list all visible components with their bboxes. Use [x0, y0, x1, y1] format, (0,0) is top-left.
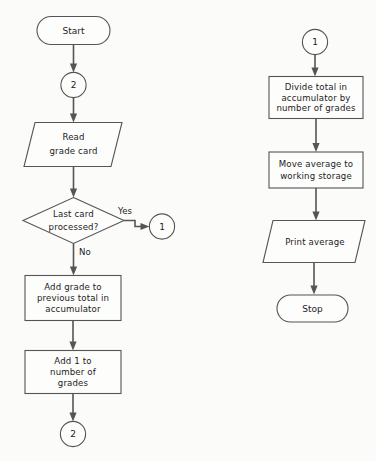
node-add-count-process[interactable]: Add 1 to number of grades: [25, 351, 121, 394]
node-print-average[interactable]: Print average: [263, 221, 365, 263]
edge-connector2-to-read: [70, 98, 77, 123]
edge-start-to-connector2: [70, 45, 77, 73]
flowchart-page: Start 2 Read grade card: [0, 0, 376, 461]
connector-1-out-label: 1: [159, 222, 165, 232]
read-grade-card-line2: grade card: [49, 146, 97, 156]
add-grade-process-line2: previous total in: [37, 293, 109, 303]
edge-decision-no: No: [70, 244, 91, 276]
print-average-label: Print average: [285, 237, 345, 247]
node-divide-process[interactable]: Divide total in accumulator by number of…: [269, 77, 363, 119]
add-count-process-line2: number of: [50, 367, 97, 377]
flowchart-canvas: Start 2 Read grade card: [0, 0, 376, 461]
read-grade-card-shape: [24, 123, 122, 167]
add-grade-process-line3: accumulator: [45, 304, 101, 314]
node-read-grade-card[interactable]: Read grade card: [24, 123, 122, 167]
edge-read-to-decision: [70, 167, 77, 198]
divide-process-line3: number of grades: [276, 103, 356, 113]
divide-process-line1: Divide total in: [285, 82, 347, 92]
stop-terminator-label: Stop: [302, 304, 323, 314]
edge-decision-yes: Yes: [117, 206, 149, 231]
edge-print-to-stop: [310, 263, 317, 295]
node-move-process[interactable]: Move average to working storage: [269, 152, 363, 188]
decision-no-label: No: [79, 247, 91, 257]
node-connector-2-in[interactable]: 2: [61, 72, 86, 97]
node-connector-2-out[interactable]: 2: [60, 421, 85, 446]
node-decision-last-card[interactable]: Last card processed?: [23, 198, 124, 244]
decision-last-card-line2: processed?: [49, 222, 99, 232]
node-connector-1-in[interactable]: 1: [302, 29, 327, 54]
start-terminator-label: Start: [63, 26, 85, 36]
move-process-line1: Move average to: [279, 159, 354, 169]
edge-move-to-print: [312, 188, 319, 221]
node-connector-1-out[interactable]: 1: [149, 214, 174, 239]
node-start-terminator[interactable]: Start: [37, 17, 110, 45]
decision-last-card-shape: [23, 198, 124, 244]
edge-addcount-to-connector2out: [69, 394, 76, 422]
decision-yes-label: Yes: [117, 206, 132, 216]
node-stop-terminator[interactable]: Stop: [277, 295, 348, 322]
edge-divide-to-move: [312, 119, 319, 153]
add-count-process-line3: grades: [58, 378, 89, 388]
divide-process-line2: accumulator by: [281, 93, 350, 103]
connector-1-in-label: 1: [312, 37, 318, 47]
read-grade-card-line1: Read: [62, 132, 84, 142]
decision-last-card-line1: Last card: [53, 209, 94, 219]
connector-2-in-label: 2: [71, 80, 77, 90]
node-add-grade-process[interactable]: Add grade to previous total in accumulat…: [25, 276, 121, 321]
add-grade-process-line1: Add grade to: [44, 282, 102, 292]
connector-2-out-label: 2: [70, 429, 76, 439]
add-count-process-line1: Add 1 to: [54, 356, 91, 366]
edge-addgrade-to-addcount: [69, 321, 76, 351]
move-process-line2: working storage: [280, 171, 352, 181]
edge-connector1-to-divide: [311, 55, 318, 77]
